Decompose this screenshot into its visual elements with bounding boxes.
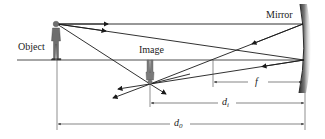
mirror-ray-diagram: Object Image Mirror f di d0 — [0, 0, 325, 139]
focal-length-label: f — [255, 77, 258, 87]
light-rays — [57, 24, 304, 98]
mirror-label: Mirror — [266, 10, 293, 20]
object-distance-label: d0 — [174, 118, 183, 130]
object-figure — [51, 21, 61, 60]
concave-mirror — [299, 4, 311, 93]
object-distance-subscript: 0 — [179, 122, 183, 130]
ray-diagram-canvas — [0, 0, 325, 139]
object-label: Object — [18, 42, 45, 52]
image-distance-subscript: i — [227, 101, 229, 109]
image-figure — [146, 60, 154, 84]
image-label: Image — [139, 45, 164, 55]
image-distance-label: di — [222, 97, 229, 109]
